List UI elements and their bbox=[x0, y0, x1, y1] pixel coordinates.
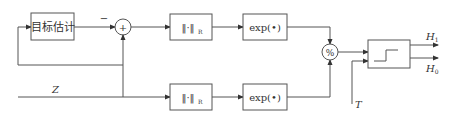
divide-symbol: % bbox=[326, 48, 335, 58]
norm-top-subscript: R bbox=[198, 28, 203, 35]
target-estimation-block: 目标估计 bbox=[31, 13, 75, 40]
norm-block-top: ‖·‖ R bbox=[170, 14, 212, 40]
norm-top-label: ‖·‖ bbox=[181, 22, 194, 34]
exp-top-to-divide-arrow bbox=[287, 27, 330, 44]
exp-bottom-label: exp(•) bbox=[249, 92, 281, 103]
t-label: T bbox=[355, 99, 363, 110]
norm-bottom-label: ‖·‖ bbox=[181, 92, 194, 104]
exp-block-top: exp(•) bbox=[243, 14, 287, 40]
h1-label: H1 bbox=[425, 31, 439, 43]
target-estimation-label: 目标估计 bbox=[31, 20, 75, 34]
norm-bottom-subscript: R bbox=[198, 98, 203, 105]
divide-junction: % bbox=[322, 44, 338, 60]
exp-block-bottom: exp(•) bbox=[243, 84, 287, 110]
sum-junction: + bbox=[115, 19, 131, 35]
h0-label: H0 bbox=[425, 63, 439, 75]
t-input-arrow bbox=[352, 61, 368, 104]
exp-bottom-to-divide-arrow bbox=[287, 60, 330, 97]
norm-block-bottom: ‖·‖ R bbox=[170, 84, 212, 110]
plus-sign: + bbox=[119, 22, 127, 33]
block-diagram: 目标估计 − + Z ‖·‖ R exp(•) ‖·‖ R exp(•) bbox=[0, 0, 455, 120]
minus-sign: − bbox=[100, 13, 108, 24]
exp-top-label: exp(•) bbox=[249, 22, 281, 33]
threshold-block bbox=[368, 40, 410, 68]
z-label: Z bbox=[51, 84, 60, 95]
